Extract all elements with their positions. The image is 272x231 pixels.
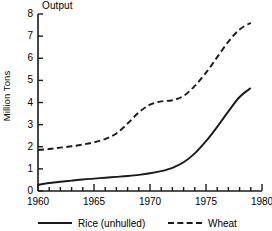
series-line-rice-unhulled <box>38 88 251 185</box>
legend-item-rice-unhulled[interactable]: Rice (unhulled) <box>38 216 145 230</box>
chart-legend: Rice (unhulled)Wheat <box>0 214 272 231</box>
legend-line-glyph <box>168 222 202 224</box>
data-series-group <box>38 23 251 185</box>
legend-dashed-line-icon <box>168 218 202 228</box>
plot-area <box>0 0 272 231</box>
series-line-wheat <box>38 23 251 150</box>
legend-line-glyph <box>38 222 72 224</box>
output-line-chart: Output Million Tons 012345678 1960196519… <box>0 0 272 231</box>
legend-label: Wheat <box>208 218 237 229</box>
x-axis-ticks <box>38 184 262 191</box>
legend-label: Rice (unhulled) <box>78 218 145 229</box>
legend-solid-line-icon <box>38 218 72 228</box>
legend-item-wheat[interactable]: Wheat <box>168 216 237 230</box>
